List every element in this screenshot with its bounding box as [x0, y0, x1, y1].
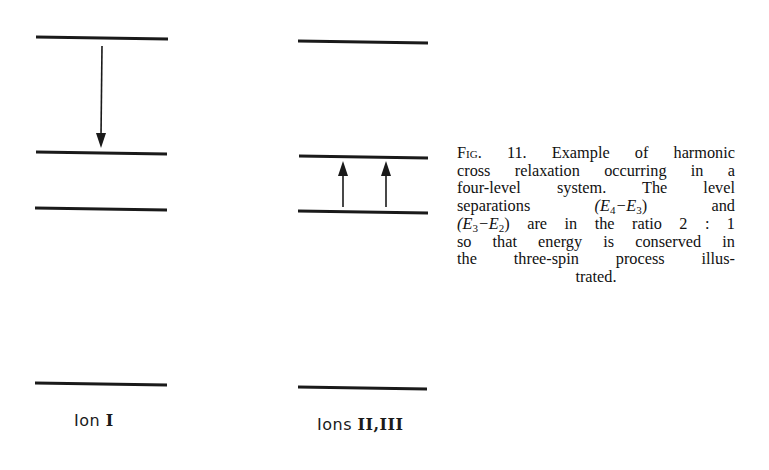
ion-1-label-numeral: I — [106, 411, 114, 430]
math-e: −E — [615, 196, 636, 215]
ion-1-label: Ion I — [74, 411, 114, 430]
caption-line-7: the three-spin process illus- — [457, 250, 735, 268]
caption-text: separations — [457, 197, 530, 215]
up-arrow-icon — [381, 161, 391, 207]
caption-line-2: cross relaxation occurring in a — [457, 162, 735, 180]
ion-1-level-e2 — [35, 208, 167, 210]
caption-math: (E4−E3) — [595, 197, 648, 215]
math-e: −E — [478, 214, 499, 233]
ion-1-level-e3 — [36, 152, 167, 154]
ions-2-3-level-e4 — [298, 41, 428, 43]
caption-line-8: trated. — [457, 268, 735, 286]
ion-1-levels — [35, 37, 168, 385]
caption-line-3: four-level system. The level — [457, 179, 735, 197]
ion-1-label-prefix: Ion — [74, 411, 100, 430]
ions-2-3-label-prefix: Ions — [317, 415, 352, 434]
caption-line-1: Fig. 11. Example of harmonic — [457, 144, 735, 162]
math-e: (E — [457, 214, 472, 233]
ions-2-3-level-e3 — [299, 156, 428, 158]
ions-2-3-level-e1 — [298, 387, 427, 389]
figure-caption: Fig. 11. Example of harmonic cross relax… — [457, 144, 735, 286]
up-arrow-icon — [338, 161, 348, 207]
down-arrow-icon — [96, 46, 106, 148]
caption-text: Example of harmonic — [552, 143, 735, 162]
caption-line-6: so that energy is conserved in — [457, 233, 735, 251]
figure-label: Fig. 11. — [457, 143, 527, 162]
ion-1-level-e4 — [36, 37, 168, 39]
math-e: (E — [595, 196, 610, 215]
caption-line-5: (E3−E2) are in the ratio 2 : 1 — [457, 215, 735, 233]
ions-2-3-level-e2 — [298, 211, 428, 213]
ion-1-level-e1 — [35, 383, 167, 385]
ions-2-3-label: Ions II,III — [317, 415, 404, 434]
caption-text: and — [711, 197, 735, 215]
caption-line-4: separations (E4−E3) and — [457, 197, 735, 215]
ions-2-3-levels — [298, 41, 428, 389]
ions-2-3-label-numeral: II,III — [358, 415, 404, 434]
caption-text: ) are in the ratio 2 : 1 — [504, 214, 735, 233]
math-paren: ) — [642, 196, 647, 215]
